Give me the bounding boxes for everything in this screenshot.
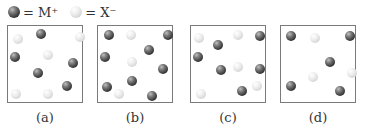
cation-sphere-icon [325, 57, 335, 67]
panel-label: (d) [280, 110, 356, 125]
cation-sphere-icon [237, 86, 247, 96]
anion-sphere-icon [233, 30, 243, 40]
panel-box-a [7, 25, 83, 103]
anion-sphere-icon [13, 34, 23, 44]
anion-sphere-icon [196, 89, 206, 99]
anion-sphere-icon [75, 32, 85, 42]
cation-sphere-icon [10, 52, 20, 62]
cation-sphere-icon [163, 30, 173, 40]
panel-box-d [280, 25, 356, 103]
cation-sphere-icon [255, 64, 265, 74]
panel-label: (a) [7, 110, 83, 125]
cation-sphere-icon [213, 40, 223, 50]
cation-sphere-icon [144, 45, 154, 55]
anion-sphere-icon [127, 57, 137, 67]
panel-label: (c) [190, 110, 266, 125]
legend-anion-label: = X⁻ [85, 5, 116, 20]
cation-sphere-icon [286, 31, 296, 41]
cation-sphere-icon [100, 52, 110, 62]
cation-sphere-icon [127, 76, 137, 86]
cation-sphere-icon [68, 58, 78, 68]
anion-sphere-icon [347, 68, 357, 78]
anion-sphere-icon [233, 62, 243, 72]
panel-box-b [97, 25, 173, 103]
panel-box-c [190, 25, 266, 103]
cation-sphere-icon [286, 81, 296, 91]
cation-sphere-icon [33, 68, 43, 78]
anion-sphere-icon [310, 33, 320, 43]
anion-sphere-icon [308, 72, 318, 82]
cation-sphere-icon [255, 31, 265, 41]
anion-sphere-icon [126, 30, 136, 40]
cation-sphere-icon [62, 81, 72, 91]
anion-sphere-icon [194, 33, 204, 43]
legend: = M⁺ = X⁻ [8, 4, 128, 20]
cation-sphere-icon [216, 65, 226, 75]
cation-sphere-icon [335, 86, 345, 96]
anion-sphere-icon [11, 89, 21, 99]
cation-sphere-icon [102, 82, 112, 92]
cation-sphere-icon [193, 52, 203, 62]
legend-cation-label: = M⁺ [23, 5, 58, 20]
anion-sphere-icon [43, 89, 53, 99]
cation-sphere-icon [104, 30, 114, 40]
anion-sphere-icon [70, 6, 82, 18]
anion-sphere-icon [114, 89, 124, 99]
cation-sphere-icon [8, 6, 20, 18]
panel-label: (b) [97, 110, 173, 125]
cation-sphere-icon [36, 29, 46, 39]
cation-sphere-icon [147, 91, 157, 101]
cation-sphere-icon [158, 64, 168, 74]
cation-sphere-icon [345, 31, 355, 41]
anion-sphere-icon [252, 81, 262, 91]
anion-sphere-icon [43, 50, 53, 60]
